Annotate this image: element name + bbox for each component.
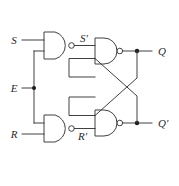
wire-cross-rail-upper <box>69 59 95 78</box>
nand-gate-s <box>44 32 65 59</box>
circuit-diagram-canvas: S E R S' R' Q Q' <box>0 0 179 186</box>
label-output-q-prime: Q' <box>158 117 169 129</box>
wire-feedback-qprime-to-nand-q <box>95 59 137 124</box>
label-node-s-prime: S' <box>80 32 89 44</box>
nand-qprime-bubble-icon <box>117 120 123 126</box>
junction-e <box>32 86 36 90</box>
nand-r-bubble-icon <box>69 126 75 132</box>
label-node-r-prime: R' <box>77 130 88 142</box>
label-output-q: Q <box>158 45 166 57</box>
wire-feedback-q-to-nand-qprime <box>95 51 137 116</box>
label-input-s: S <box>11 34 17 46</box>
label-input-r: R <box>10 128 18 140</box>
nand-gate-qprime <box>95 110 117 136</box>
nand-gate-r <box>44 115 65 142</box>
label-input-e: E <box>10 82 18 94</box>
logic-circuit-svg: S E R S' R' Q Q' <box>0 0 179 186</box>
nand-q-bubble-icon <box>117 48 123 54</box>
nand-gate-q <box>95 38 117 64</box>
wire-cross-rail-lower <box>69 97 95 116</box>
nand-s-bubble-icon <box>69 43 75 49</box>
